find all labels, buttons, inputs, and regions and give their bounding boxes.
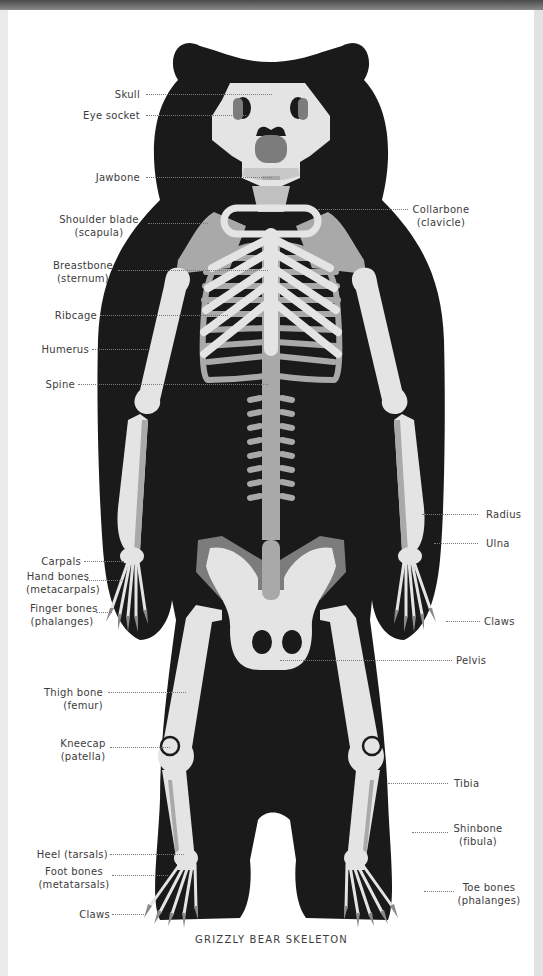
label-thigh-bone-name: Thigh bone [44, 686, 103, 699]
leader-claws-foot [112, 914, 146, 915]
leader-eye-socket [146, 115, 246, 116]
leader-heel [110, 854, 184, 855]
label-claws-foot: Claws [79, 908, 110, 921]
label-hand-bones-latin: (metacarpals) [26, 583, 90, 596]
leader-tibia [388, 783, 448, 784]
leader-ribcage [100, 315, 228, 316]
label-shoulder-blade: Shoulder blade (scapula) [52, 213, 146, 239]
leader-jawbone [146, 177, 272, 178]
label-foot-bones: Foot bones (metatarsals) [38, 865, 110, 891]
label-thigh-bone-latin: (femur) [44, 699, 103, 712]
label-kneecap-name: Kneecap [58, 737, 108, 750]
leader-ulna [434, 543, 478, 544]
label-radius: Radius [486, 508, 521, 521]
label-breastbone-name: Breastbone [50, 259, 116, 272]
leader-foot-bones [112, 875, 168, 876]
figure-caption: GRIZZLY BEAR SKELETON [0, 934, 543, 945]
label-carpals: Carpals [41, 555, 81, 568]
leader-shinbone [412, 832, 448, 833]
label-toe-bones-name: Toe bones [456, 881, 522, 894]
label-heel: Heel (tarsals) [37, 848, 108, 861]
label-collarbone-name: Collarbone [410, 203, 472, 216]
leader-collarbone [318, 209, 408, 210]
leader-finger-bones [96, 612, 112, 613]
leader-kneecap [110, 747, 170, 748]
label-ribcage: Ribcage [55, 309, 97, 322]
label-toe-bones-latin: (phalanges) [456, 894, 522, 907]
leader-shoulder-blade [148, 223, 208, 224]
label-ulna: Ulna [486, 537, 510, 550]
label-shoulder-blade-latin: (scapula) [52, 226, 146, 239]
label-hand-bones: Hand bones (metacarpals) [26, 570, 90, 596]
label-finger-bones-name: Finger bones [30, 602, 94, 615]
label-breastbone: Breastbone (sternum) [50, 259, 116, 285]
label-skull: Skull [115, 88, 140, 101]
leader-radius [422, 514, 478, 515]
label-humerus: Humerus [41, 343, 89, 356]
label-kneecap-latin: (patella) [58, 750, 108, 763]
leader-toe-bones [424, 891, 454, 892]
label-jawbone: Jawbone [96, 171, 140, 184]
label-hand-bones-name: Hand bones [26, 570, 90, 583]
label-collarbone-latin: (clavicle) [410, 216, 472, 229]
leader-claws-hand [446, 621, 480, 622]
sternum [264, 228, 278, 356]
leader-spine [78, 384, 268, 385]
label-finger-bones-latin: (phalanges) [30, 615, 94, 628]
label-finger-bones: Finger bones (phalanges) [30, 602, 94, 628]
label-kneecap: Kneecap (patella) [58, 737, 108, 763]
label-collarbone: Collarbone (clavicle) [410, 203, 472, 229]
leader-carpals [84, 561, 124, 562]
label-claws-hand: Claws [484, 615, 515, 628]
label-foot-bones-latin: (metatarsals) [38, 878, 110, 891]
label-eye-socket: Eye socket [83, 109, 140, 122]
label-shinbone-latin: (fibula) [450, 835, 506, 848]
leader-thigh-bone [108, 692, 186, 693]
leader-humerus [92, 349, 150, 350]
label-tibia: Tibia [454, 777, 479, 790]
label-shinbone: Shinbone (fibula) [450, 822, 506, 848]
label-shinbone-name: Shinbone [450, 822, 506, 835]
label-foot-bones-name: Foot bones [38, 865, 110, 878]
label-pelvis: Pelvis [456, 654, 486, 667]
leader-skull [146, 94, 272, 95]
label-thigh-bone: Thigh bone (femur) [44, 686, 103, 712]
leader-pelvis [280, 660, 452, 661]
label-breastbone-latin: (sternum) [50, 272, 116, 285]
label-spine: Spine [46, 378, 75, 391]
label-shoulder-blade-name: Shoulder blade [52, 213, 146, 226]
leader-breastbone [118, 270, 268, 271]
leader-hand-bones [86, 580, 122, 581]
label-toe-bones: Toe bones (phalanges) [456, 881, 522, 907]
